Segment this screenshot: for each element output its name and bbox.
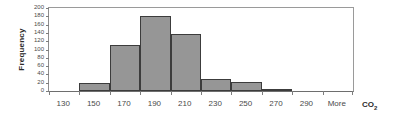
y-axis-tick-mark — [46, 50, 49, 51]
x-axis-tick-mark — [231, 91, 232, 95]
y-axis-tick-mark — [46, 58, 49, 59]
x-axis-tick-label: 150 — [87, 99, 100, 109]
x-axis-tick-mark — [262, 91, 263, 95]
bar — [140, 16, 170, 91]
x-axis-title: CO2 — [362, 100, 377, 111]
x-axis-tick-mark — [171, 91, 172, 95]
y-axis-tick-label: 100 — [26, 46, 44, 52]
y-axis-tick-label: 180 — [26, 12, 44, 18]
y-axis-tick-label: 60 — [26, 62, 44, 68]
y-axis-tick-labels: 020406080100120140160180200 — [26, 3, 44, 93]
y-axis-tick-mark — [46, 41, 49, 42]
x-axis-title-text: CO — [362, 100, 374, 109]
y-axis-tick-mark — [46, 74, 49, 75]
bar — [171, 34, 201, 91]
bar — [201, 79, 231, 91]
x-axis-tick-label: More — [328, 99, 346, 109]
x-axis-tick-mark — [49, 91, 50, 95]
y-axis-tick-label: 80 — [26, 54, 44, 60]
y-axis-tick-label: 20 — [26, 79, 44, 85]
plot-area — [48, 7, 354, 92]
x-axis-tick-label: 290 — [300, 99, 313, 109]
x-axis-tick-mark — [292, 91, 293, 95]
x-axis-tick-label: 250 — [239, 99, 252, 109]
x-axis-tick-labels: 130150170190210230250270290More — [48, 99, 352, 111]
bar — [262, 89, 292, 91]
x-axis-tick-label: 210 — [178, 99, 191, 109]
bar — [110, 45, 140, 91]
y-axis-tick-mark — [46, 25, 49, 26]
y-axis-tick-mark — [46, 33, 49, 34]
y-axis-tick-label: 120 — [26, 37, 44, 43]
x-axis-tick-label: 230 — [209, 99, 222, 109]
y-axis-tick-label: 200 — [26, 4, 44, 10]
y-axis-tick-label: 160 — [26, 21, 44, 27]
y-axis-tick-mark — [46, 16, 49, 17]
y-axis-title-text: Frequency — [17, 28, 26, 70]
x-axis-tick-mark — [323, 91, 324, 95]
x-axis-tick-mark — [352, 91, 353, 95]
x-axis-tick-label: 170 — [117, 99, 130, 109]
y-axis-tick-mark — [46, 83, 49, 84]
x-axis-tick-label: 130 — [57, 99, 70, 109]
y-axis-tick-label: 140 — [26, 29, 44, 35]
x-axis-tick-mark — [110, 91, 111, 95]
x-axis-tick-mark — [79, 91, 80, 95]
histogram-chart: Frequency 020406080100120140160180200 13… — [0, 0, 399, 125]
x-axis-title-subscript: 2 — [374, 105, 377, 111]
bar-series — [49, 8, 353, 91]
x-axis-tick-mark — [140, 91, 141, 95]
x-axis-tick-label: 190 — [148, 99, 161, 109]
y-axis-tick-label: 0 — [26, 87, 44, 93]
x-axis-tick-mark — [201, 91, 202, 95]
x-axis-tick-label: 270 — [269, 99, 282, 109]
y-axis-tick-mark — [46, 66, 49, 67]
bar — [231, 82, 261, 91]
y-axis-tick-mark — [46, 8, 49, 9]
y-axis-tick-label: 40 — [26, 70, 44, 76]
bar — [79, 83, 109, 91]
